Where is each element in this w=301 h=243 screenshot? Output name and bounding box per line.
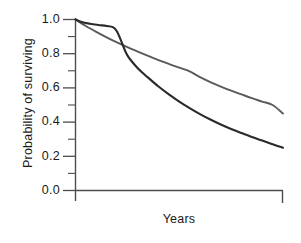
x-axis-title: Years <box>75 212 283 226</box>
series-line-gray-curve <box>76 20 284 114</box>
y-axis-minor-ticks <box>68 37 75 174</box>
y-tick-label-6: 0.0 <box>26 184 60 197</box>
data-series-group <box>76 20 284 148</box>
y-tick-label-1: 1.0 <box>26 13 60 26</box>
survival-curve-chart: 1.0 0.8 0.6 0.4 0.2 0.0 Probability of s… <box>0 0 301 243</box>
y-axis-title: Probability of surviving <box>21 28 35 178</box>
series-line-dark-curve <box>76 20 284 148</box>
